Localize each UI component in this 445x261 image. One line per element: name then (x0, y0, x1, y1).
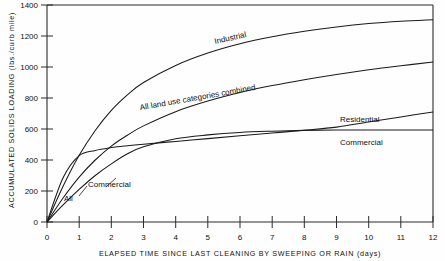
x-tick-label-10: 10 (364, 233, 373, 242)
x-tick-label-1: 1 (77, 233, 82, 242)
x-tick-label-6: 6 (238, 233, 243, 242)
curve-label-commercial-right: Commercial (340, 138, 383, 147)
y-tick-label-600: 600 (25, 125, 39, 134)
x-tick-label-8: 8 (302, 233, 307, 242)
leader-line-all (79, 186, 87, 196)
x-tick-label-2: 2 (109, 233, 114, 242)
x-tick-label-0: 0 (45, 233, 50, 242)
y-tick-label-800: 800 (25, 94, 39, 103)
x-tick-label-11: 11 (397, 233, 406, 242)
x-tick-label-12: 12 (429, 233, 438, 242)
x-tick-label-7: 7 (270, 233, 275, 242)
x-tick-label-4: 4 (173, 233, 178, 242)
chart-figure: 1400 1200 1000 800 600 400 200 0 ACCUMUL… (0, 0, 445, 261)
y-tick-label-0: 0 (34, 218, 39, 227)
x-tick-label-9: 9 (334, 233, 339, 242)
curve-residential (47, 112, 433, 222)
y-tick-label-1400: 1400 (20, 1, 38, 10)
curve-label-all-combined: All land use categories combined (139, 83, 256, 112)
curve-label-commercial-left: Commercial (88, 180, 131, 189)
y-tick-label-1000: 1000 (20, 63, 38, 72)
curve-label-all: All (64, 194, 73, 203)
curve-label-residential: Residential (340, 115, 380, 124)
y-tick-label-200: 200 (25, 187, 39, 196)
curve-annotations: Industrial All land use categories combi… (64, 30, 383, 203)
chart-svg: 1400 1200 1000 800 600 400 200 0 ACCUMUL… (0, 0, 445, 261)
y-axis-tick-labels: 1400 1200 1000 800 600 400 200 0 (20, 1, 38, 227)
y-tick-label-1200: 1200 (20, 32, 38, 41)
y-tick-label-400: 400 (25, 156, 39, 165)
y-axis-title: ACCUMULATED SOLIDS LOADING (lbs./curb mi… (7, 12, 16, 208)
x-axis-title: ELAPSED TIME SINCE LAST CLEANING BY SWEE… (99, 249, 381, 258)
x-axis-tick-labels: 0 1 2 3 4 5 6 7 8 9 10 11 12 (45, 233, 438, 242)
x-tick-label-5: 5 (206, 233, 211, 242)
x-tick-label-3: 3 (141, 233, 146, 242)
